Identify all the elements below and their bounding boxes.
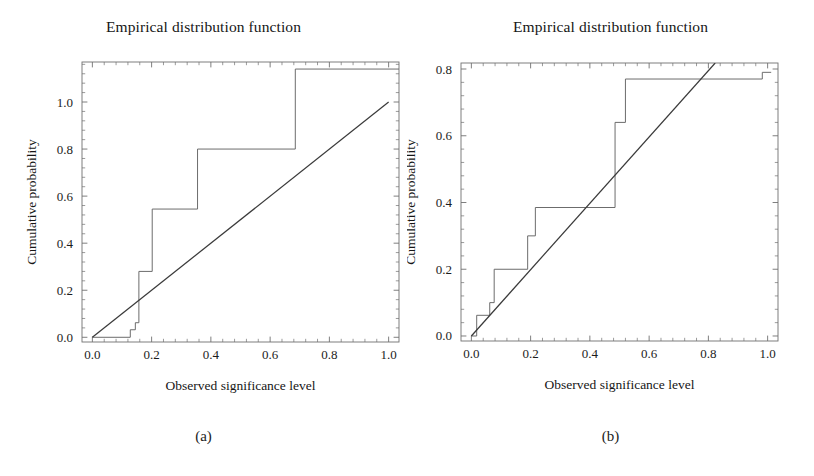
x-tick-label: 0.6 [262,347,279,362]
x-tick-label: 0.2 [143,347,159,362]
x-tick-label: 0.4 [582,346,599,361]
panel-b: Empirical distribution function 0.00.20.… [407,0,814,476]
y-tick-label: 0.8 [436,62,452,77]
panel-caption-a: (a) [0,428,407,445]
x-tick-label: 1.0 [760,346,776,361]
x-tick-label: 0.0 [463,346,479,361]
plot-frame [461,63,778,341]
x-tick-label: 0.0 [84,347,100,362]
y-tick-label: 0.4 [436,195,453,210]
reference-line [92,102,388,337]
reference-line [471,63,715,336]
y-axis-label: Cumulative probability [407,139,418,265]
x-tick-label: 1.0 [381,347,397,362]
x-tick-label: 0.2 [522,346,538,361]
data-layer [92,69,399,337]
y-tick-label: 0.2 [436,262,452,277]
y-tick-label: 1.0 [57,95,73,110]
plot-area-b: 0.00.20.40.60.81.00.00.20.40.60.8Observe… [407,0,814,420]
y-tick-label: 0.0 [57,330,73,345]
plot-area-a: 0.00.20.40.60.81.00.00.20.40.60.81.0Obse… [0,0,407,420]
x-tick-label: 0.4 [203,347,220,362]
panel-a: Empirical distribution function 0.00.20.… [0,0,407,476]
x-tick-label: 0.8 [321,347,337,362]
x-tick-label: 0.8 [700,346,716,361]
ecdf-step-line [471,72,771,336]
x-axis-label: Observed significance level [545,377,695,392]
y-tick-label: 0.8 [57,142,73,157]
x-axis-label: Observed significance level [166,378,316,393]
y-tick-label: 0.2 [57,283,73,298]
y-tick-label: 0.6 [57,189,74,204]
data-layer [471,63,771,336]
y-tick-label: 0.4 [57,236,74,251]
y-tick-label: 0.6 [436,128,453,143]
plot-frame [82,62,399,342]
ecdf-step-line [92,69,399,337]
x-tick-label: 0.6 [641,346,658,361]
figure-container: Empirical distribution function 0.00.20.… [0,0,814,476]
panel-caption-b: (b) [407,428,814,445]
y-tick-label: 0.0 [436,328,452,343]
y-axis-label: Cumulative probability [24,139,39,265]
